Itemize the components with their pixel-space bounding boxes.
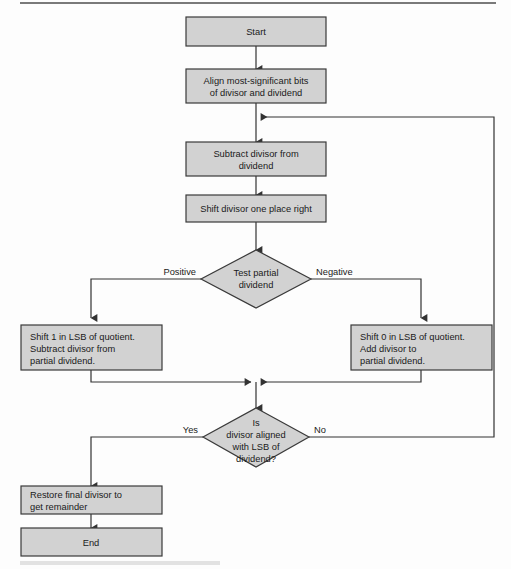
node-end-label: End	[83, 538, 100, 548]
node-shift-divisor-right[interactable]: Shift divisor one place right	[186, 195, 326, 222]
node-subtract-divisor-label-line2: dividend	[239, 161, 274, 171]
node-right-action-label-line1: Shift 0 in LSB of quotient.	[360, 332, 465, 342]
node-subtract-divisor-label-line1: Subtract divisor from	[213, 149, 299, 159]
node-align-msb[interactable]: Align most-significant bits of divisor a…	[186, 69, 326, 103]
node-right-action[interactable]: Shift 0 in LSB of quotient. Add divisor …	[351, 325, 492, 370]
node-left-action[interactable]: Shift 1 in LSB of quotient. Subtract div…	[21, 325, 162, 370]
edge-label-negative: Negative	[316, 267, 353, 277]
node-start[interactable]: Start	[186, 17, 326, 46]
node-aligned-test-label-line2: divisor aligned	[226, 430, 285, 440]
node-aligned-test-label-line4: dividend?	[236, 454, 276, 464]
node-align-msb-label-line2: of divisor and dividend	[210, 88, 303, 98]
flowchart-canvas: Start Align most-significant bits of div…	[0, 0, 511, 569]
node-end[interactable]: End	[21, 528, 162, 556]
bottom-rule-divider	[20, 561, 220, 565]
node-right-action-label-line2: Add divisor to	[360, 344, 416, 354]
edge-test-positive-to-left-action	[91, 279, 201, 318]
node-restore-divisor-label-line2: get remainder	[30, 502, 87, 512]
node-left-action-label-line2: Subtract divisor from	[30, 344, 116, 354]
node-shift-divisor-right-label: Shift divisor one place right	[200, 204, 312, 214]
node-aligned-test-label-line3: with LSB of	[231, 442, 279, 452]
node-test-partial-label-line2: dividend	[239, 280, 274, 290]
edge-test-negative-to-right-action	[311, 279, 421, 318]
edge-label-no: No	[314, 425, 326, 435]
node-test-partial-label-line1: Test partial	[234, 268, 279, 278]
edge-label-yes: Yes	[183, 425, 199, 435]
node-start-label: Start	[246, 27, 266, 37]
node-align-msb-label-line1: Align most-significant bits	[204, 76, 309, 86]
node-left-action-label-line3: partial dividend.	[30, 356, 95, 366]
node-aligned-test[interactable]: Is divisor aligned with LSB of dividend?	[203, 408, 309, 467]
node-right-action-label-line3: partial dividend.	[360, 356, 425, 366]
node-aligned-test-label-line1: Is	[252, 418, 260, 428]
node-subtract-divisor[interactable]: Subtract divisor from dividend	[186, 142, 326, 176]
flowchart-page: Start Align most-significant bits of div…	[0, 0, 511, 569]
edge-label-positive: Positive	[163, 267, 196, 277]
edge-right-action-to-merge	[261, 370, 421, 382]
node-test-partial-dividend[interactable]: Test partial dividend	[201, 250, 311, 308]
edge-aligned-yes-to-restore	[91, 437, 203, 486]
node-left-action-label-line1: Shift 1 in LSB of quotient.	[30, 332, 135, 342]
node-restore-divisor-label-line1: Restore final divisor to	[30, 490, 122, 500]
node-restore-divisor[interactable]: Restore final divisor to get remainder	[21, 486, 162, 514]
edge-left-action-to-merge	[91, 370, 251, 382]
